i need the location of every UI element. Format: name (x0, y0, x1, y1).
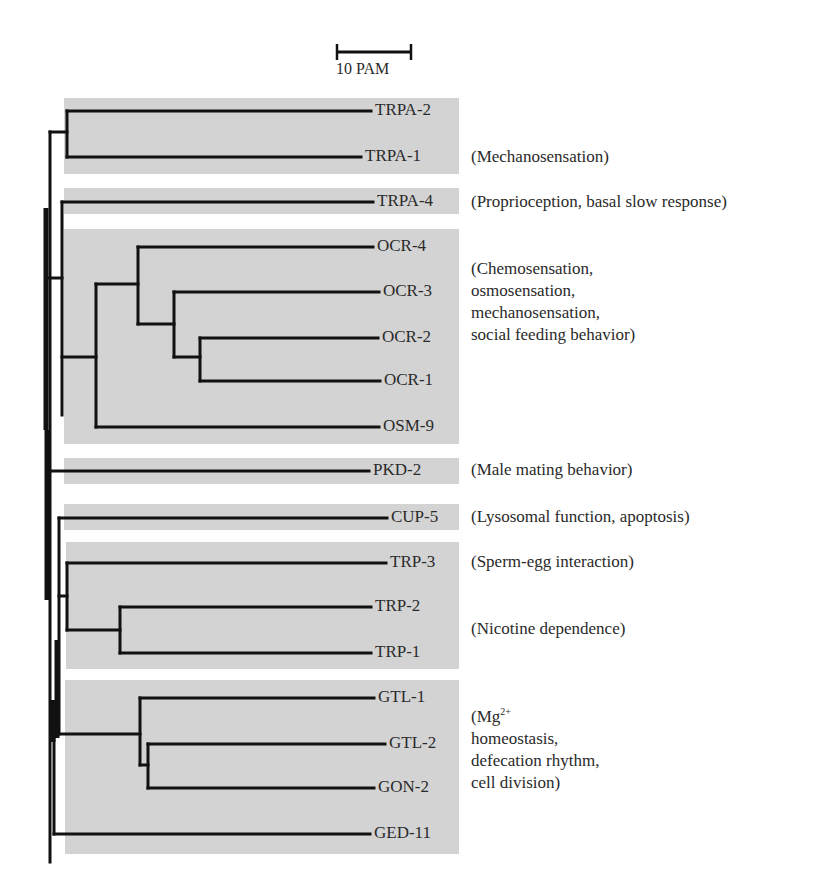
annotation-line: social feeding behavior) (471, 324, 635, 346)
leaf-label-trp-1: TRP-1 (375, 643, 420, 661)
leaf-label-ged-11: GED-11 (374, 824, 431, 842)
leaf-label-ocr-2: OCR-2 (382, 328, 431, 346)
leaf-label-ocr-1: OCR-1 (384, 371, 433, 389)
leaf-label-cup-5: CUP-5 (391, 508, 438, 526)
annotation-mg-homeostasis: (Mg2+homeostasis,defecation rhythm,cell … (471, 701, 599, 794)
leaf-label-gtl-2: GTL-2 (389, 734, 436, 752)
annotation-line: osmosensation, (471, 280, 635, 302)
annotation-line: mechanosensation, (471, 302, 635, 324)
annotation-line: (Sperm-egg interaction) (471, 551, 634, 573)
leaf-label-pkd-2: PKD-2 (373, 461, 421, 479)
annotation-chemosensation: (Chemosensation,osmosensation,mechanosen… (471, 258, 635, 346)
leaf-label-ocr-4: OCR-4 (377, 237, 426, 255)
annotation-mechanosensation: (Mechanosensation) (471, 146, 609, 168)
annotation-line: (Mg2+ (471, 701, 599, 728)
annotation-line: (Male mating behavior) (471, 459, 632, 481)
annotation-line: cell division) (471, 772, 599, 794)
scale-bar-label: 10 PAM (336, 60, 389, 78)
annotation-sperm-egg: (Sperm-egg interaction) (471, 551, 634, 573)
annotation-line: (Lysosomal function, apoptosis) (471, 506, 690, 528)
annotation-line: defecation rhythm, (471, 750, 599, 772)
leaf-label-gtl-1: GTL-1 (378, 688, 425, 706)
annotation-nicotine: (Nicotine dependence) (471, 618, 625, 640)
leaf-label-trp-2: TRP-2 (375, 597, 420, 615)
leaf-label-trp-3: TRP-3 (390, 553, 435, 571)
annotation-line: (Proprioception, basal slow response) (471, 191, 727, 213)
annotation-line: (Nicotine dependence) (471, 618, 625, 640)
annotation-line: (Chemosensation, (471, 258, 635, 280)
leaf-label-ocr-3: OCR-3 (383, 282, 432, 300)
annotation-proprioception: (Proprioception, basal slow response) (471, 191, 727, 213)
annotation-male-mating: (Male mating behavior) (471, 459, 632, 481)
phylogenetic-tree (0, 0, 829, 894)
annotation-lysosomal: (Lysosomal function, apoptosis) (471, 506, 690, 528)
annotation-line: (Mechanosensation) (471, 146, 609, 168)
scale-bar (337, 44, 411, 60)
superscript-charge: 2+ (500, 706, 511, 717)
leaf-label-gon-2: GON-2 (378, 778, 429, 796)
leaf-label-trpa-1: TRPA-1 (365, 147, 421, 165)
leaf-label-osm-9: OSM-9 (383, 417, 434, 435)
annotation-line: homeostasis, (471, 728, 599, 750)
leaf-label-trpa-4: TRPA-4 (377, 192, 433, 210)
leaf-label-trpa-2: TRPA-2 (375, 101, 431, 119)
